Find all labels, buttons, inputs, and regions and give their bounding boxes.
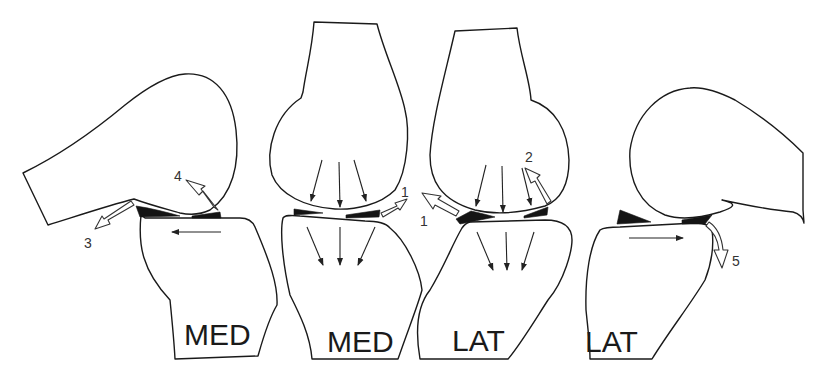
callout-3: 3 [84, 235, 92, 251]
callout-4: 4 [174, 168, 182, 184]
meniscus-medial [294, 209, 323, 215]
meniscus-anterior [617, 210, 651, 224]
panel-2-label: MED [327, 325, 394, 358]
callout-2: 2 [525, 149, 533, 165]
panel-4-label: LAT [585, 325, 638, 358]
panel-3-lateral-extension: 1 2 LAT [418, 28, 572, 359]
panel-4-lateral-flexion: 5 LAT [585, 88, 804, 359]
panel-3-label: LAT [452, 324, 505, 357]
callout-5: 5 [732, 253, 740, 269]
knee-meniscus-diagram: 3 4 MED 1 MED 1 [0, 0, 822, 379]
panel-1-label: MED [184, 318, 251, 351]
panel-1-medial-flexion: 3 4 MED [23, 74, 277, 359]
femur-outline [630, 88, 804, 223]
panel-2-medial-extension: 1 MED [270, 22, 422, 359]
femur-outline [270, 22, 408, 209]
hollow-arrow-1-medial [381, 199, 407, 217]
callout-1-medial: 1 [401, 184, 409, 200]
femur-outline [430, 28, 569, 213]
callout-1-lateral: 1 [420, 213, 428, 229]
meniscus-lateral [346, 210, 380, 218]
